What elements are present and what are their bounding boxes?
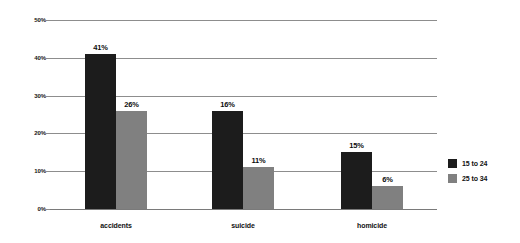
bar-value-label: 26%: [124, 101, 138, 109]
y-axis: 0%10%20%30%40%50%: [0, 20, 46, 209]
legend-swatch-icon: [448, 174, 457, 183]
bar: [85, 54, 116, 209]
y-axis-tick-label: 30%: [4, 93, 46, 99]
bar: [341, 152, 372, 209]
bar-value-label: 16%: [220, 101, 234, 109]
y-axis-tick-label: 40%: [4, 55, 46, 61]
legend-item-label: 25 to 34: [462, 175, 487, 182]
bar: [372, 186, 403, 209]
legend-swatch-icon: [448, 159, 457, 168]
bar-value-label: 15%: [349, 142, 363, 150]
plot-area: 41%26%16%11%15%6%: [50, 20, 437, 209]
y-axis-tick-label: 10%: [4, 168, 46, 174]
bar-value-label: 6%: [382, 176, 392, 184]
bar-value-label: 11%: [252, 157, 266, 165]
y-axis-tick-label: 20%: [4, 130, 46, 136]
bar: [212, 111, 243, 209]
y-axis-tick-label: 0%: [4, 206, 46, 212]
bar-chart: 0%10%20%30%40%50% 41%26%16%11%15%6% acci…: [0, 0, 520, 243]
gridline: [50, 20, 437, 21]
y-axis-tick-label: 50%: [4, 17, 46, 23]
bar: [243, 167, 274, 209]
x-axis-category-label: accidents: [100, 222, 131, 229]
bar-value-label: 41%: [93, 44, 107, 52]
legend-item-label: 15 to 24: [462, 160, 487, 167]
chart-legend: 15 to 24 25 to 34: [448, 156, 487, 186]
x-axis-category-label: homicide: [357, 222, 387, 229]
bar: [116, 111, 147, 209]
legend-item[interactable]: 25 to 34: [448, 171, 487, 186]
legend-item[interactable]: 15 to 24: [448, 156, 487, 171]
x-axis-category-label: suicide: [231, 222, 254, 229]
axis-baseline: [50, 209, 437, 210]
